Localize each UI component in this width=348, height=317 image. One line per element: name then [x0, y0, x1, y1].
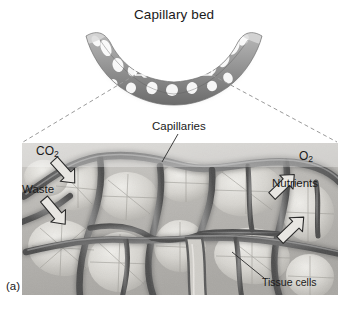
title-capillary-bed: Capillary bed — [134, 8, 214, 22]
label-nutrients: Nutrients — [272, 178, 318, 190]
capillary-bed-figure — [0, 0, 348, 317]
label-tissue-cells: Tissue cells — [262, 277, 316, 288]
label-co2: CO2 — [36, 145, 59, 157]
label-o2: O2 — [299, 150, 313, 162]
panel-label: (a) — [6, 281, 20, 293]
label-co2-subscript: 2 — [54, 149, 59, 159]
label-capillaries: Capillaries — [152, 121, 206, 133]
label-o2-subscript: 2 — [308, 154, 313, 164]
label-co2-text: CO — [36, 144, 54, 158]
label-waste: Waste — [22, 184, 54, 196]
label-o2-text: O — [299, 149, 308, 163]
